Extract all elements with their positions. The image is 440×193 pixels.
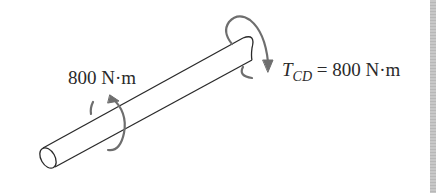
shaft <box>36 37 253 171</box>
left-torque-text: 800 N·m <box>68 67 136 88</box>
page-edge-bar <box>430 0 436 193</box>
shaft-top-edge <box>43 38 243 148</box>
left-torque-label: 800 N·m <box>68 68 136 87</box>
shaft-end-right <box>243 37 253 60</box>
torque-symbol: T <box>282 59 293 80</box>
torque-subscript: CD <box>293 69 312 84</box>
right-torque-label: TCD = 800 N·m <box>282 60 400 79</box>
equals-sign: = <box>317 59 328 80</box>
right-torque-value: 800 N·m <box>332 59 400 80</box>
diagram-canvas: 800 N·m TCD = 800 N·m <box>0 0 440 193</box>
left-torque-arrow-icon <box>91 95 125 150</box>
shaft-diagram <box>0 0 440 193</box>
right-torque-arrow-icon <box>226 16 273 78</box>
